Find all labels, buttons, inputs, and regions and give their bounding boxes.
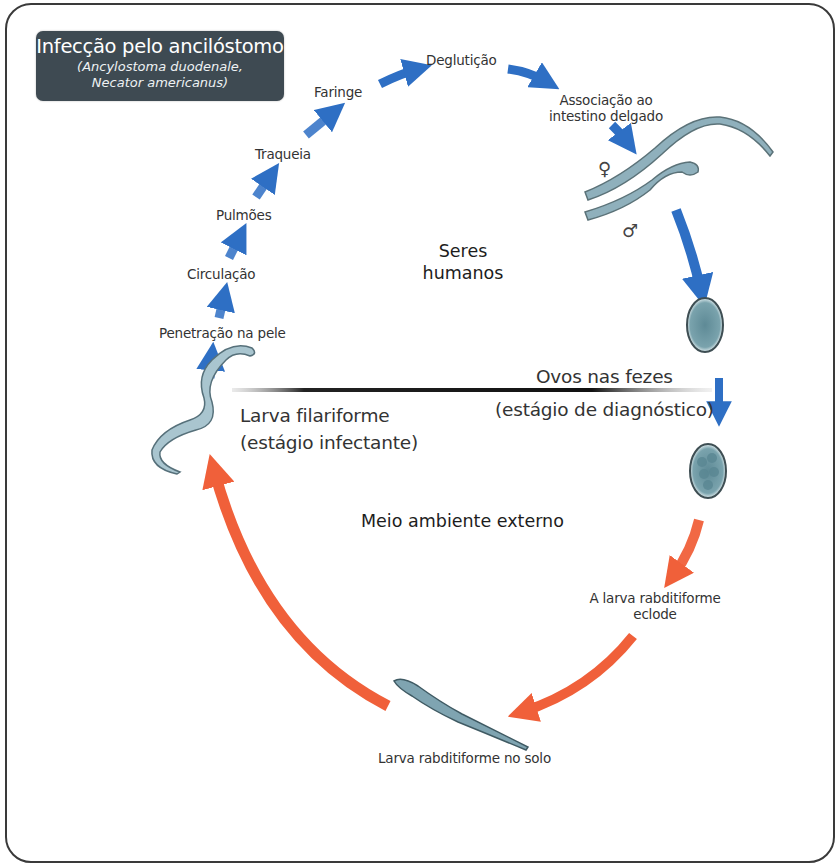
zone-human-line2: humanos — [407, 262, 519, 284]
stage-circulation: Circulação — [187, 266, 255, 282]
filariform-label-line1: Larva filariforme — [240, 405, 389, 427]
arrow-trachea-to-pharynx — [256, 175, 271, 197]
stage-pharynx: Faringe — [314, 84, 362, 100]
zone-external-environment: Meio ambiente externo — [361, 510, 564, 532]
arrow-intestine-to-adults — [612, 125, 628, 143]
arrow-circulation-to-lungs — [219, 296, 224, 318]
stage-trachea: Traqueia — [255, 146, 311, 162]
arrow-throat-to-swallow — [380, 69, 418, 84]
hatch-label-line1: A larva rabditiforme — [575, 590, 735, 606]
hatch-label-line2: eclode — [575, 606, 735, 622]
zone-divider-line — [232, 388, 712, 392]
stage-small-intestine: Associação ao intestino delgado — [536, 92, 676, 124]
diagram-title: Infecção pelo ancilóstomo — [36, 35, 284, 59]
arrow-soil-to-filariform — [214, 470, 388, 706]
stage-swallowing: Deglutição — [426, 52, 497, 68]
stage-skin-penetration: Penetração na pele — [159, 325, 286, 341]
arrow-egg-to-hatch — [673, 520, 699, 576]
arrow-lungs-to-trachea — [229, 236, 240, 258]
male-symbol: ♂ — [622, 222, 638, 240]
soil-larva-label: Larva rabditiforme no solo — [378, 750, 551, 766]
rhabditiform-larva — [394, 679, 528, 750]
egg-in-feces — [687, 298, 723, 352]
arrow-hatch-to-soil — [522, 636, 633, 712]
zone-human-hosts: Seres humanos — [407, 240, 519, 284]
species-line-2: Necator americanus) — [36, 75, 284, 91]
zone-human-line1: Seres — [407, 240, 519, 262]
stage-small-intestine-line1: Associação ao — [536, 92, 676, 108]
arrow-swallow-to-intestine — [508, 69, 547, 82]
eggs-label-line1: Ovos nas fezes — [536, 366, 673, 388]
eggs-label-line2: (estágio de diagnóstico) — [495, 399, 714, 421]
stage-small-intestine-line2: intestino delgado — [536, 108, 676, 124]
title-box: Infecção pelo ancilóstomo (Ancylostoma d… — [36, 31, 284, 101]
stage-lungs: Pulmões — [216, 207, 272, 223]
filariform-label-line2: (estágio infectante) — [240, 432, 418, 454]
arrow-adults-to-eggs — [676, 210, 701, 291]
arrow-pharynx-to-throat — [306, 112, 334, 135]
species-line-1: (Ancylostoma duodenale, — [36, 59, 284, 75]
hatch-label: A larva rabditiforme eclode — [575, 590, 735, 622]
female-symbol: ♀ — [598, 160, 611, 178]
